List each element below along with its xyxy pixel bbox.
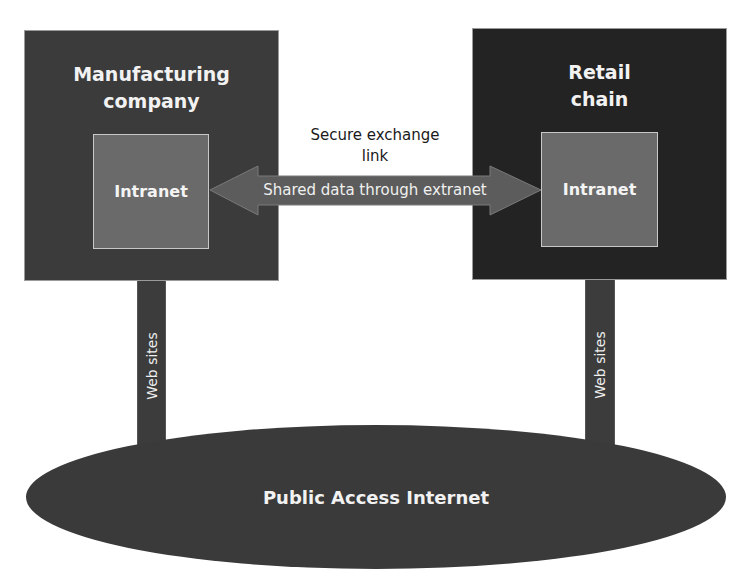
manufacturing-title-line2: company: [25, 88, 278, 115]
web-sites-label-left: Web sites: [144, 332, 160, 400]
manufacturing-company-title: Manufacturing company: [25, 61, 278, 115]
public-internet-ellipse: Public Access Internet: [26, 425, 726, 569]
secure-exchange-label-line2: link: [290, 146, 460, 167]
manufacturing-intranet-box: Intranet: [93, 134, 209, 249]
web-sites-connector-left: Web sites: [137, 281, 166, 451]
retail-title-line1: Retail: [473, 59, 726, 86]
secure-exchange-label: Secure exchange link: [290, 125, 460, 167]
retail-chain-title: Retail chain: [473, 59, 726, 113]
public-internet-label: Public Access Internet: [263, 487, 489, 508]
retail-intranet-box: Intranet: [541, 132, 658, 247]
retail-intranet-label: Intranet: [563, 180, 637, 199]
manufacturing-intranet-label: Intranet: [114, 182, 188, 201]
shared-data-arrow-label: Shared data through extranet: [240, 180, 510, 200]
manufacturing-title-line1: Manufacturing: [25, 61, 278, 88]
web-sites-label-right: Web sites: [592, 331, 608, 399]
retail-title-line2: chain: [473, 86, 726, 113]
secure-exchange-label-line1: Secure exchange: [290, 125, 460, 146]
web-sites-connector-right: Web sites: [585, 280, 615, 450]
